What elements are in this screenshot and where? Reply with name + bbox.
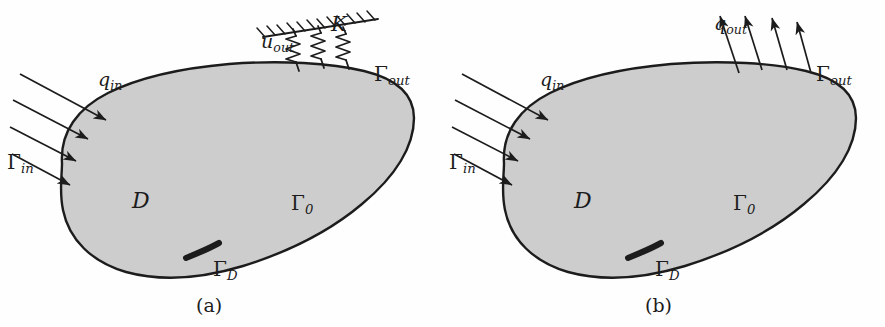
panel-b: Γin qin qout Γout Γ0 ΓD D (b) [442, 0, 885, 327]
gamma-0-label-a: Γ0 [291, 193, 313, 213]
spring-2 [311, 26, 325, 68]
domain-blob-a [61, 62, 414, 277]
q-in-label-b: qin [540, 70, 564, 89]
panel-caption-b: (b) [645, 296, 672, 315]
q-out-label-b: qout [714, 14, 747, 33]
gamma-out-label-a: Γout [374, 64, 410, 84]
q-in-label-a: qin [98, 70, 122, 89]
gamma-d-label-b: ΓD [655, 259, 680, 279]
gamma-0-label-b: Γ0 [733, 193, 755, 213]
domain-label-a: D [132, 190, 150, 212]
domain-label-b: D [574, 190, 592, 212]
gamma-in-label-a: Γin [7, 152, 34, 172]
spring-stiffness-label-a: K [331, 14, 347, 35]
gamma-in-label-b: Γin [449, 152, 476, 172]
gamma-out-label-b: Γout [816, 64, 852, 84]
gamma-d-label-a: ΓD [213, 259, 238, 279]
boundary-value-problem-figure: Γin qin uout K Γout Γ0 ΓD D (a) [0, 0, 885, 327]
panel-caption-a: (a) [196, 296, 222, 315]
domain-blob-b [503, 62, 856, 277]
u-out-label-a: uout [261, 32, 294, 51]
panel-a: Γin qin uout K Γout Γ0 ΓD D (a) [0, 0, 443, 327]
